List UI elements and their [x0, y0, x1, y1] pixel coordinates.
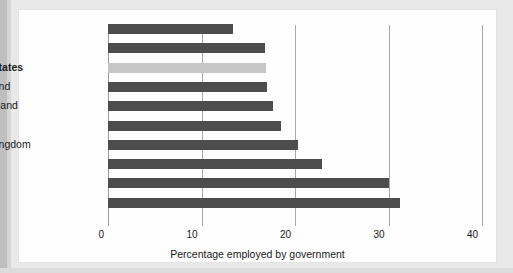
bar [108, 63, 266, 73]
x-tick-label-40: 40 [467, 229, 482, 240]
plot-area: GermanyAustraliaUnited StatesSwitzerland… [19, 10, 496, 262]
bar-category-label: Switzerland [0, 81, 106, 92]
bar-row: Switzerland [19, 81, 496, 99]
x-tick-label-30: 30 [373, 229, 388, 240]
bar-row: United States [19, 62, 496, 80]
page-edge-shadow-left-inner [7, 0, 11, 273]
bar [108, 159, 322, 169]
bar [108, 121, 281, 131]
page-edge-shadow-bottom [0, 268, 513, 273]
bar-row: France [19, 158, 496, 176]
bar-row: Germany [19, 23, 496, 41]
bar-category-label: United Kingdom [0, 139, 106, 150]
bar-row: New Zealand [19, 100, 496, 118]
chart-panel: GermanyAustraliaUnited StatesSwitzerland… [19, 10, 496, 262]
bar-category-label: Denmark [0, 177, 106, 188]
bar-category-label: Spain [0, 120, 106, 131]
bar-row: Denmark [19, 177, 496, 195]
bar-category-label: Australia [0, 42, 106, 53]
bar-row: Australia [19, 42, 496, 60]
bar-row: United Kingdom [19, 139, 496, 157]
bar [108, 24, 233, 34]
bar [108, 101, 273, 111]
scanned-page-frame: GermanyAustraliaUnited StatesSwitzerland… [0, 0, 513, 273]
bar [108, 198, 400, 208]
bar-category-label: United States [0, 62, 106, 73]
x-tick-label-20: 20 [280, 229, 295, 240]
x-tick-label-0: 0 [98, 229, 108, 240]
bar-category-label: Germany [0, 23, 106, 34]
x-axis-title: Percentage employed by government [19, 248, 496, 260]
bar-row: Spain [19, 120, 496, 138]
bar [108, 82, 267, 92]
page-edge-shadow-left [0, 0, 7, 273]
bar [108, 140, 298, 150]
bar-category-label: New Zealand [0, 100, 106, 111]
bar [108, 178, 389, 188]
x-tick-label-10: 10 [186, 229, 201, 240]
bar-category-label: France [0, 158, 106, 169]
bar-row: Sweden [19, 197, 496, 215]
bar-category-label: Sweden [0, 197, 106, 208]
bar [108, 43, 265, 53]
